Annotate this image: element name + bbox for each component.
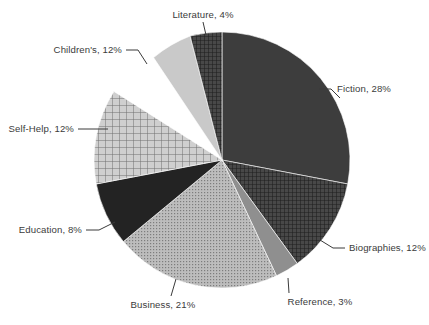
pie-chart-svg: Literature, 4% Children's, 12% Self-Help… (0, 0, 429, 325)
leader-line-childrens (126, 50, 147, 64)
leader-line-business (171, 279, 176, 296)
pie-label-childrens: Children's, 12% (54, 44, 123, 55)
leader-line-biographies (320, 240, 345, 248)
pie-slices (94, 32, 350, 288)
pie-label-education: Education, 8% (19, 224, 83, 235)
pie-chart-container: Literature, 4% Children's, 12% Self-Help… (0, 0, 429, 325)
pie-label-fiction: Fiction, 28% (337, 83, 391, 94)
pie-label-business: Business, 21% (131, 299, 196, 310)
pie-label-literature: Literature, 4% (172, 9, 233, 20)
pie-label-self-help: Self-Help, 12% (9, 123, 75, 134)
leader-line-reference (288, 278, 289, 293)
pie-label-biographies: Biographies, 12% (349, 242, 426, 253)
pie-slice-fiction[interactable] (222, 32, 350, 184)
pie-label-reference: Reference, 3% (288, 296, 353, 307)
